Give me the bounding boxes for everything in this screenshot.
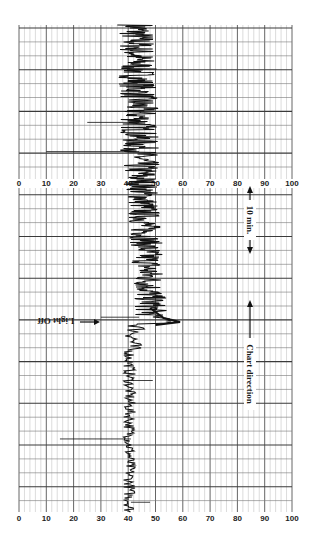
ten-min-label: 10 min.	[245, 206, 255, 235]
chart-direction-label: Chart direction	[245, 344, 255, 404]
recorder-trace	[46, 25, 180, 512]
svg-text:80: 80	[233, 514, 242, 523]
svg-text:0: 0	[17, 179, 22, 188]
svg-text:100: 100	[285, 179, 299, 188]
ten-min-annotation: 10 min.	[244, 186, 256, 254]
svg-text:0: 0	[17, 514, 22, 523]
svg-text:80: 80	[233, 179, 242, 188]
light-off-label: Light Off	[37, 316, 74, 326]
svg-text:90: 90	[260, 179, 269, 188]
svg-text:30: 30	[96, 514, 105, 523]
scale-labels: 0102030405060708090100010203040506070809…	[15, 179, 299, 523]
chart-direction-annotation: Chart direction	[244, 300, 256, 410]
svg-text:10: 10	[42, 514, 51, 523]
svg-text:90: 90	[260, 514, 269, 523]
svg-text:20: 20	[69, 179, 78, 188]
arrowhead-up-icon	[247, 300, 253, 307]
light-off-annotation: Light Off	[37, 316, 100, 326]
svg-text:70: 70	[206, 514, 215, 523]
svg-text:100: 100	[285, 514, 299, 523]
svg-text:30: 30	[96, 179, 105, 188]
svg-text:10: 10	[42, 179, 51, 188]
strip-chart: 0102030405060708090100010203040506070809…	[0, 0, 318, 551]
svg-text:50: 50	[151, 514, 160, 523]
svg-text:40: 40	[124, 514, 133, 523]
svg-text:70: 70	[206, 179, 215, 188]
svg-text:20: 20	[69, 514, 78, 523]
svg-text:60: 60	[178, 514, 187, 523]
svg-text:60: 60	[178, 179, 187, 188]
